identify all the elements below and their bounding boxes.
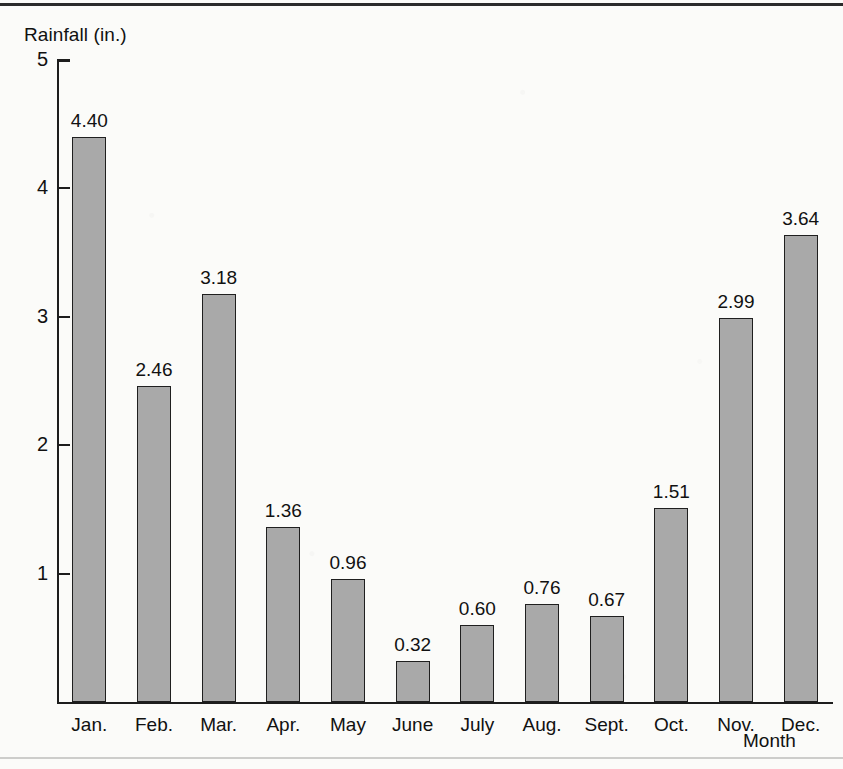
y-axis-title: Rainfall (in.) — [24, 24, 127, 46]
y-tick-mark — [57, 573, 70, 575]
y-tick-label: 3 — [14, 306, 48, 326]
bar-value-label: 0.96 — [308, 553, 388, 572]
bar-value-label: 1.51 — [631, 482, 711, 501]
bar — [72, 137, 106, 702]
bar — [331, 579, 365, 702]
bar — [202, 294, 236, 702]
bar — [137, 386, 171, 702]
bar — [590, 616, 624, 702]
y-axis-line — [57, 60, 59, 704]
bar — [784, 235, 818, 702]
bar-value-label: 1.36 — [243, 501, 323, 520]
bar — [525, 604, 559, 702]
bar — [396, 661, 430, 702]
bar-value-label: 2.46 — [114, 360, 194, 379]
y-tick-mark — [57, 444, 70, 446]
x-axis-line — [57, 702, 833, 704]
y-tick-label: 1 — [14, 563, 48, 583]
rainfall-bar-chart: Rainfall (in.) 12345 4.402.463.181.360.9… — [0, 0, 843, 769]
bar-value-label: 3.64 — [761, 209, 841, 228]
y-tick-mark — [57, 316, 70, 318]
bar-value-label: 3.18 — [179, 268, 259, 287]
bar-value-label: 0.32 — [373, 635, 453, 654]
x-axis-title: Month — [743, 730, 796, 752]
bar — [654, 508, 688, 702]
y-tick-label: 4 — [14, 177, 48, 197]
y-tick-label: 5 — [14, 49, 48, 69]
bar-value-label: 0.67 — [567, 590, 647, 609]
y-tick-mark — [57, 59, 70, 61]
bar — [719, 318, 753, 702]
bar-value-label: 2.99 — [696, 292, 776, 311]
bar — [460, 625, 494, 702]
bar-value-label: 0.60 — [437, 599, 517, 618]
bar — [266, 527, 300, 702]
y-tick-mark — [57, 187, 70, 189]
bar-value-label: 4.40 — [49, 111, 129, 130]
y-tick-label: 2 — [14, 434, 48, 454]
